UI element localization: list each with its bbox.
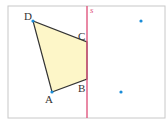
point-dot-upper xyxy=(139,19,142,22)
vertex-label-b: B xyxy=(78,82,85,94)
reflection-diagram: s D C B A xyxy=(0,0,168,122)
point-dot-lower xyxy=(119,90,122,93)
vertex-label-a: A xyxy=(45,93,53,105)
vertex-label-c: C xyxy=(78,30,85,42)
mirror-line-label: s xyxy=(90,5,94,15)
vertex-label-d: D xyxy=(24,10,32,22)
